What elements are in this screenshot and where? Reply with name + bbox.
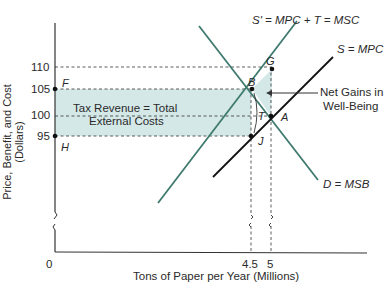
diagram-graphics (0, 0, 390, 295)
d-label: D = MSB (323, 178, 369, 190)
point-a-label: A (281, 111, 288, 123)
point-f-label: F (62, 77, 69, 89)
point-h-label: H (61, 141, 69, 153)
tax-t-label: T (258, 110, 265, 122)
y-axis-label: Price, Benefit, and Cost (Dollars) (1, 67, 25, 217)
point-b-label: B (248, 76, 255, 88)
y-tick-100: 100 (31, 109, 50, 121)
point-j-label: J (258, 135, 264, 147)
s-prime-label: S' = MPC + T = MSC (252, 14, 359, 26)
x-break-icons (249, 215, 273, 227)
y-tick-105: 105 (31, 83, 50, 95)
x-tick-5: 5 (267, 258, 273, 270)
y-tick-95: 95 (37, 130, 50, 142)
s-label: S = MPC (337, 43, 383, 55)
point-g-label: G (266, 55, 275, 67)
y-axis-break-lower-icon (53, 224, 55, 230)
x-tick-0: 0 (46, 258, 52, 270)
x-axis (55, 252, 367, 253)
net-gains-label-line2: Well-Being (323, 100, 378, 112)
tax-revenue-label-line2: External Costs (89, 115, 164, 127)
externality-tax-diagram: Price, Benefit, and Cost (Dollars) Tons … (0, 0, 390, 295)
net-gains-label-line1: Net Gains in (320, 86, 383, 98)
y-tick-110: 110 (31, 61, 49, 73)
x-tick-4-5: 4.5 (242, 258, 258, 270)
x-axis-label: Tons of Paper per Year (Millions) (133, 270, 299, 282)
tax-revenue-label-line1: Tax Revenue = Total (73, 102, 177, 114)
y-axis-break-icon (54, 212, 57, 219)
